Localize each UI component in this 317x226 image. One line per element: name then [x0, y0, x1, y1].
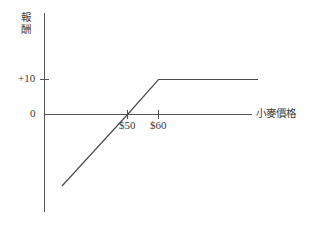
- y-axis-label: 報 酬: [19, 11, 33, 35]
- payoff-diagram-figure: 報 酬 小麥價格 +10 0 $50 $60: [0, 0, 317, 226]
- payoff-curve: [62, 80, 258, 187]
- y-tick-label-zero: 0: [30, 108, 36, 119]
- x-axis-label: 小麥價格: [256, 108, 296, 119]
- y-tick-label-plus-ten: +10: [18, 73, 35, 84]
- x-tick-label-sixty: $60: [150, 120, 167, 131]
- x-tick-label-fifty: $50: [119, 120, 136, 131]
- y-axis-label-char-2: 酬: [19, 23, 33, 35]
- y-axis-label-char-1: 報: [19, 11, 33, 23]
